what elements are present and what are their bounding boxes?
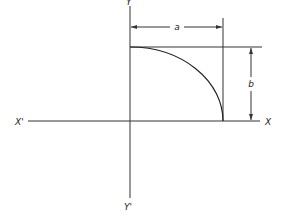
label-b: b (248, 79, 254, 89)
label-x: X (264, 117, 272, 127)
diagram-canvas: a b X X' Y Y' (0, 0, 281, 215)
ellipse-arc (130, 47, 223, 121)
dimension-a: a (131, 22, 222, 32)
label-a: a (174, 22, 180, 32)
label-y: Y (126, 0, 133, 7)
dimension-b: b (248, 48, 254, 120)
label-x-prime: X' (14, 117, 24, 127)
label-y-prime: Y' (124, 202, 132, 212)
